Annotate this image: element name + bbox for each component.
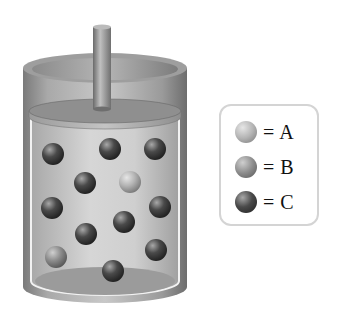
sphere-c-icon xyxy=(149,196,171,218)
legend-label: = B xyxy=(263,156,294,179)
sphere-c-icon xyxy=(144,138,166,160)
piston-rod xyxy=(93,25,111,112)
legend-item-c: = C xyxy=(235,190,294,214)
sphere-c-icon xyxy=(42,143,64,165)
sphere-b-icon xyxy=(235,156,257,178)
legend: = A = B = C xyxy=(219,104,319,226)
legend-label: = C xyxy=(263,191,294,214)
sphere-b-icon xyxy=(45,246,67,268)
sphere-c-icon xyxy=(145,239,167,261)
sphere-c-icon xyxy=(113,211,135,233)
legend-item-a: = A xyxy=(235,120,294,144)
legend-item-b: = B xyxy=(235,155,294,179)
sphere-c-icon xyxy=(74,172,96,194)
sphere-c-icon xyxy=(102,260,124,282)
sphere-a-icon xyxy=(119,171,141,193)
sphere-c-icon xyxy=(75,223,97,245)
legend-label: = A xyxy=(263,121,294,144)
sphere-c-icon xyxy=(41,197,63,219)
sphere-a-icon xyxy=(235,121,257,143)
sphere-c-icon xyxy=(99,138,121,160)
sphere-c-icon xyxy=(235,191,257,213)
